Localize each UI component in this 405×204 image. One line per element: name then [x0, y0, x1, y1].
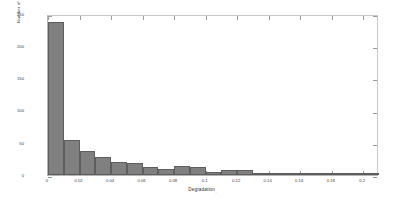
y-axis-tick-label: 50	[19, 142, 24, 146]
x-axis-tick-label: 0.12	[232, 179, 240, 183]
histogram-bar	[48, 22, 64, 175]
x-axis-tick-label: 0.18	[327, 179, 335, 183]
histogram-bar	[332, 173, 348, 175]
histogram-bar	[269, 173, 285, 175]
x-axis-tick-label: 0.16	[295, 179, 303, 183]
plot-area	[47, 15, 378, 176]
x-axis-tick-label: 0.08	[169, 179, 177, 183]
y-axis-tick-label: 200	[17, 45, 24, 49]
histogram-bar	[237, 170, 253, 175]
histogram-bar	[80, 151, 96, 175]
y-axis-tick-label: 250	[17, 13, 24, 17]
histogram-bars	[48, 16, 377, 175]
histogram-bar	[174, 166, 190, 175]
y-axis-title: Number of simulations	[17, 0, 21, 50]
histogram-bar	[190, 167, 206, 175]
y-axis-tick-mirror	[373, 177, 377, 178]
histogram-bar	[127, 163, 143, 175]
x-axis-tick-label: 0.1	[202, 179, 208, 183]
y-axis-tick-label: 150	[17, 77, 24, 81]
x-axis-tick-label: 0.06	[137, 179, 145, 183]
histogram-bar	[363, 173, 379, 175]
histogram-bar	[300, 173, 316, 175]
y-axis-tick	[48, 177, 52, 178]
histogram-bar	[253, 173, 269, 175]
histogram-bar	[95, 157, 111, 175]
x-axis-title: Degradation,	[0, 188, 405, 194]
y-axis-tick-label: 100	[17, 109, 24, 113]
histogram-bar	[111, 162, 127, 175]
histogram-bar	[143, 167, 159, 175]
histogram-bar	[221, 170, 237, 175]
x-axis-title-text: Degradation	[188, 187, 215, 192]
y-axis-tick-label: 0	[22, 174, 24, 178]
histogram-bar	[158, 169, 174, 175]
histogram-bar	[284, 173, 300, 175]
x-axis-tick-label: 0.2	[359, 179, 365, 183]
histogram-bar	[347, 173, 363, 175]
x-axis-tick-label: 0.04	[106, 179, 114, 183]
histogram-bar	[206, 172, 222, 175]
x-axis-title-subscript: ,	[215, 190, 217, 194]
x-axis-tick-label: 0	[46, 179, 48, 183]
x-axis-tick-label: 0.02	[74, 179, 82, 183]
histogram-figure: Number of simulations 050100150200250 00…	[0, 0, 405, 204]
x-axis-tick-label: 0.14	[264, 179, 272, 183]
histogram-bar	[316, 173, 332, 175]
histogram-bar	[64, 140, 80, 175]
